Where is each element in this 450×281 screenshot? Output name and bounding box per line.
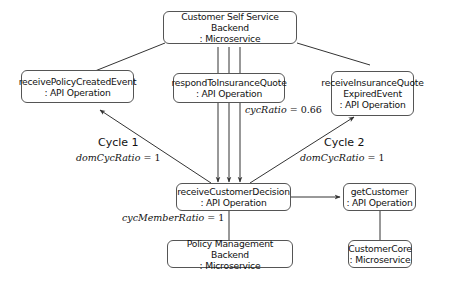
node-type: : API Operation: [339, 99, 405, 110]
node-type: : Microservice: [200, 260, 261, 271]
node-receive-policy-created-event: receivePolicyCreatedEvent : API Operatio…: [21, 70, 134, 103]
metric-eq: =: [364, 152, 378, 163]
cycle-1-title: Cycle 1: [98, 136, 139, 149]
node-title: receivePolicyCreatedEvent: [19, 76, 137, 87]
metric-name: domCycRatio: [76, 152, 140, 163]
metric-name: cycRatio: [245, 104, 287, 115]
node-title: Customer Self Service Backend: [164, 11, 296, 33]
metric-eq: =: [287, 104, 301, 115]
cyc-member-ratio-label: cycMemberRatio = 1: [122, 212, 224, 223]
node-respond-to-insurance-quote: respondToInsuranceQuote : API Operation: [173, 73, 285, 103]
node-receive-customer-decision: receiveCustomerDecision : API Operation: [176, 183, 291, 211]
edge-backend-to-policycreated: [95, 43, 165, 71]
metric-eq: =: [140, 152, 154, 163]
node-customer-self-service-backend: Customer Self Service Backend : Microser…: [163, 11, 297, 44]
node-type: : Microservice: [200, 33, 261, 44]
node-type: : API Operation: [200, 197, 266, 208]
edge-decision-to-quoteexpired: [250, 117, 354, 183]
cyc-ratio-label: cycRatio = 0.66: [245, 104, 322, 115]
node-title: CustomerCore: [348, 243, 412, 254]
node-type: : API Operation: [44, 87, 110, 98]
metric-eq: =: [204, 212, 218, 223]
node-title: receiveCustomerDecision: [177, 186, 290, 197]
node-get-customer: getCustomer : API Operation: [343, 183, 416, 211]
cycle-2-title: Cycle 2: [324, 136, 365, 149]
node-type: : Microservice: [350, 254, 411, 265]
metric-name: domCycRatio: [300, 152, 364, 163]
edge-backend-to-quoteexpired: [297, 43, 370, 65]
node-receive-insurance-quote-expired-event: receiveInsuranceQuote ExpiredEvent : API…: [331, 71, 414, 116]
metric-value: 1: [154, 152, 160, 163]
metric-value: 1: [378, 152, 384, 163]
node-customer-core: CustomerCore : Microservice: [348, 240, 412, 268]
node-title: respondToInsuranceQuote: [171, 77, 286, 88]
cycle-1-metric: domCycRatio = 1: [76, 152, 160, 163]
metric-name: cycMemberRatio: [122, 212, 204, 223]
node-type: : API Operation: [346, 197, 412, 208]
node-title: receiveInsuranceQuote: [321, 77, 423, 88]
cycle-2-metric: domCycRatio = 1: [300, 152, 384, 163]
node-title: getCustomer: [351, 186, 409, 197]
node-type: : API Operation: [196, 88, 262, 99]
metric-value: 0.66: [301, 104, 322, 115]
node-title-cont: ExpiredEvent: [343, 88, 402, 99]
node-policy-management-backend: Policy Management Backend : Microservice: [167, 240, 293, 268]
metric-value: 1: [218, 212, 224, 223]
node-title: Policy Management Backend: [168, 238, 292, 260]
